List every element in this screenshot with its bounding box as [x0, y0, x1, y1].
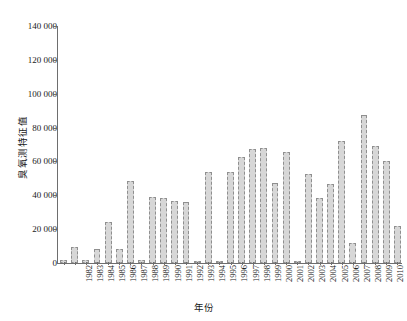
x-tick-mark: [331, 262, 332, 265]
x-tick-label: 2004: [329, 265, 338, 299]
x-tick-label: 1991: [185, 265, 194, 299]
x-tick-label: 1984: [107, 265, 116, 299]
bar: [94, 249, 101, 263]
bar: [238, 157, 245, 263]
x-tick-mark: [75, 262, 76, 265]
x-tick-label: 1989: [162, 265, 171, 299]
x-tick-mark: [242, 262, 243, 265]
bar: [372, 146, 379, 263]
x-tick-mark: [397, 262, 398, 265]
y-tick-mark: [53, 195, 57, 196]
x-tick-mark: [153, 262, 154, 265]
bar: [260, 148, 267, 263]
bar: [349, 243, 356, 263]
bar: [183, 202, 190, 263]
bar: [227, 172, 234, 263]
y-tick-mark: [53, 60, 57, 61]
x-tick-label: 1993: [207, 265, 216, 299]
bar: [149, 197, 156, 263]
x-tick-mark: [253, 262, 254, 265]
x-tick-mark: [275, 262, 276, 265]
x-tick-mark: [342, 262, 343, 265]
x-tick-mark: [197, 262, 198, 265]
x-tick-label: 2009: [385, 265, 394, 299]
bar: [205, 172, 212, 263]
x-tick-mark: [375, 262, 376, 265]
x-tick-label: 1996: [240, 265, 249, 299]
x-tick-mark: [119, 262, 120, 265]
y-tick-label: 60 000: [16, 157, 57, 166]
bar: [272, 183, 279, 263]
x-tick-label: 1983: [96, 265, 105, 299]
bar: [116, 249, 123, 263]
x-tick-mark: [353, 262, 354, 265]
x-tick-label: 1986: [129, 265, 138, 299]
x-tick-label: 1999: [274, 265, 283, 299]
x-tick-label: 2010: [396, 265, 405, 299]
bar: [160, 198, 167, 263]
x-tick-label: 1985: [118, 265, 127, 299]
y-tick-label: 120 000: [16, 55, 57, 64]
bar: [105, 222, 112, 263]
x-tick-mark: [364, 262, 365, 265]
x-tick-mark: [208, 262, 209, 265]
x-tick-label: 2005: [341, 265, 350, 299]
x-tick-label: 2006: [352, 265, 361, 299]
x-tick-label: 2002: [307, 265, 316, 299]
x-tick-label: 2001: [296, 265, 305, 299]
x-axis-title: 年份: [0, 300, 407, 314]
bar: [283, 152, 290, 263]
y-tick-mark: [53, 229, 57, 230]
x-tick-label: 1995: [229, 265, 238, 299]
x-tick-mark: [97, 262, 98, 265]
x-tick-mark: [297, 262, 298, 265]
x-tick-label: 2008: [374, 265, 383, 299]
bar: [361, 115, 368, 263]
x-tick-label: 1997: [252, 265, 261, 299]
x-tick-mark: [141, 262, 142, 265]
x-tick-label: 1992: [196, 265, 205, 299]
x-axis-tick-labels: 1982198319841985198619871988198919901991…: [58, 265, 402, 305]
bar: [171, 201, 178, 263]
bar: [327, 184, 334, 263]
ozone-characteristic-bar-chart: 臭氧测特征值 020 00040 00060 00080 000100 0001…: [0, 0, 407, 321]
x-tick-mark: [308, 262, 309, 265]
bar: [305, 174, 312, 263]
y-axis-tick-labels: 020 00040 00060 00080 000100 000120 0001…: [16, 0, 57, 321]
y-tick-mark: [53, 128, 57, 129]
bar: [394, 226, 401, 263]
bar: [71, 247, 78, 263]
y-tick-label: 80 000: [16, 123, 57, 132]
y-tick-label: 0: [16, 259, 57, 268]
x-tick-mark: [86, 262, 87, 265]
x-tick-mark: [64, 262, 65, 265]
x-tick-label: 2003: [318, 265, 327, 299]
x-tick-label: 1998: [263, 265, 272, 299]
y-tick-mark: [53, 161, 57, 162]
x-tick-mark: [320, 262, 321, 265]
x-tick-mark: [219, 262, 220, 265]
y-tick-mark: [53, 94, 57, 95]
x-tick-mark: [130, 262, 131, 265]
x-tick-label: 2007: [363, 265, 372, 299]
bar: [338, 141, 345, 263]
y-tick-label: 40 000: [16, 191, 57, 200]
x-tick-mark: [175, 262, 176, 265]
bar: [127, 181, 134, 263]
y-tick-label: 140 000: [16, 22, 57, 31]
bar: [383, 161, 390, 263]
x-tick-mark: [386, 262, 387, 265]
x-tick-mark: [231, 262, 232, 265]
y-tick-mark: [53, 26, 57, 27]
x-tick-label: 2000: [285, 265, 294, 299]
x-tick-label: 1994: [218, 265, 227, 299]
plot-area: [57, 26, 402, 263]
x-tick-label: 1987: [140, 265, 149, 299]
bar: [316, 198, 323, 263]
x-tick-mark: [264, 262, 265, 265]
bar: [249, 149, 256, 263]
x-tick-label: 1990: [174, 265, 183, 299]
x-tick-label: 1988: [151, 265, 160, 299]
x-tick-mark: [286, 262, 287, 265]
bar-series: [58, 26, 402, 263]
